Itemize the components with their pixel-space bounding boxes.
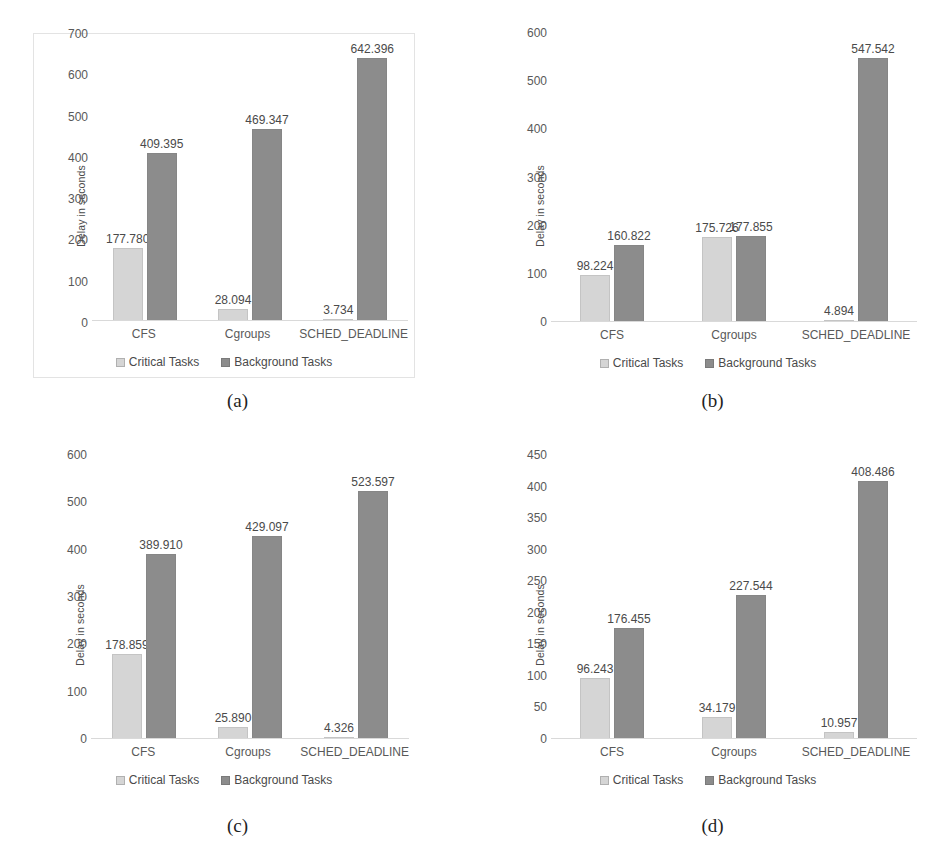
plot-area-a: 177.780409.39528.094469.3473.734642.396 [92, 34, 408, 321]
bar-value-label: 4.894 [824, 304, 854, 318]
y-tick-label: 700 [68, 27, 88, 41]
x-tick-label: CFS [92, 327, 196, 345]
bar-wrapper: 429.097 [252, 455, 282, 739]
bar-value-label: 34.179 [699, 701, 736, 715]
bar-background-tasks[interactable] [252, 536, 282, 739]
bar-background-tasks[interactable] [736, 236, 766, 322]
y-axis-ticks-c: 0100200300400500600 [51, 455, 87, 795]
bar-groups-c: 178.859389.91025.890429.0974.326523.597 [91, 455, 409, 739]
bar-wrapper: 389.910 [146, 455, 176, 739]
legend-item[interactable]: Critical Tasks [600, 773, 683, 787]
bar-critical-tasks[interactable] [702, 237, 732, 322]
bar-wrapper: 4.326 [324, 455, 354, 739]
bar-wrapper: 175.726 [702, 33, 732, 322]
plot-area-b: 98.224160.822175.726177.8554.894547.542 [551, 33, 917, 322]
y-tick-label: 600 [68, 68, 88, 82]
bar-group: 175.726177.855 [673, 33, 795, 322]
x-tick-label: Cgroups [673, 745, 795, 763]
legend-item[interactable]: Critical Tasks [116, 355, 199, 369]
bar-wrapper: 28.094 [218, 34, 248, 321]
bar-background-tasks[interactable] [858, 58, 888, 322]
y-tick-label: 0 [540, 732, 547, 746]
bar-background-tasks[interactable] [614, 628, 644, 739]
panel-d: Delay in seconds 05010015020025030035040… [475, 430, 950, 855]
bar-group: 10.957408.486 [795, 455, 917, 739]
bar-value-label: 28.094 [215, 293, 252, 307]
bar-value-label: 175.726 [695, 221, 738, 235]
plot-frame-a: Delay in seconds 0100200300400500600700 … [33, 33, 415, 378]
y-axis-ticks-a: 0100200300400500600700 [52, 34, 88, 377]
legend-a: Critical TasksBackground Tasks [34, 355, 414, 369]
plot-frame-d: Delay in seconds 05010015020025030035040… [493, 455, 923, 795]
plot-frame-c: Delay in seconds 0100200300400500600 178… [33, 455, 415, 795]
legend-item[interactable]: Background Tasks [221, 355, 332, 369]
bar-value-label: 10.957 [821, 716, 858, 730]
bar-critical-tasks[interactable] [702, 717, 732, 739]
legend-item[interactable]: Background Tasks [221, 773, 332, 787]
bar-background-tasks[interactable] [147, 153, 177, 321]
legend-item[interactable]: Critical Tasks [116, 773, 199, 787]
x-axis-labels-b: CFSCgroupsSCHED_DEADLINE [551, 328, 917, 346]
x-tick-label: CFS [551, 328, 673, 346]
y-tick-label: 100 [67, 685, 87, 699]
legend-item[interactable]: Background Tasks [705, 773, 816, 787]
y-tick-label: 200 [68, 233, 88, 247]
legend-label: Background Tasks [718, 773, 816, 787]
bar-background-tasks[interactable] [252, 129, 282, 321]
bar-wrapper: 177.780 [113, 34, 143, 321]
bar-value-label: 98.224 [577, 259, 614, 273]
bar-wrapper: 177.855 [736, 33, 766, 322]
bar-value-label: 160.822 [607, 229, 650, 243]
y-tick-label: 500 [527, 74, 547, 88]
bar-wrapper: 469.347 [252, 34, 282, 321]
y-tick-label: 250 [527, 574, 547, 588]
bar-background-tasks[interactable] [358, 491, 388, 739]
bar-background-tasks[interactable] [614, 245, 644, 322]
x-axis-line-c [91, 738, 409, 739]
x-axis-line-d [551, 738, 917, 739]
y-tick-label: 400 [527, 480, 547, 494]
square-swatch-icon [116, 776, 125, 785]
bar-groups-d: 96.243176.45534.179227.54410.957408.486 [551, 455, 917, 739]
legend-label: Critical Tasks [613, 356, 683, 370]
bar-value-label: 3.734 [323, 303, 353, 317]
legend-item[interactable]: Critical Tasks [600, 356, 683, 370]
bar-wrapper: 3.734 [323, 34, 353, 321]
bar-group: 98.224160.822 [551, 33, 673, 322]
bar-group: 4.894547.542 [795, 33, 917, 322]
legend-item[interactable]: Background Tasks [705, 356, 816, 370]
bar-wrapper: 642.396 [357, 34, 387, 321]
bar-critical-tasks[interactable] [112, 654, 142, 739]
y-tick-label: 400 [527, 122, 547, 136]
y-tick-label: 300 [527, 543, 547, 557]
caption-b: (b) [475, 390, 950, 412]
bar-critical-tasks[interactable] [580, 678, 610, 739]
bar-critical-tasks[interactable] [580, 275, 610, 322]
legend-d: Critical TasksBackground Tasks [493, 773, 923, 787]
bar-background-tasks[interactable] [736, 595, 766, 739]
x-tick-label: SCHED_DEADLINE [795, 328, 917, 346]
legend-label: Background Tasks [234, 355, 332, 369]
x-tick-label: Cgroups [673, 328, 795, 346]
y-tick-label: 300 [68, 192, 88, 206]
square-swatch-icon [705, 359, 714, 368]
x-tick-label: CFS [551, 745, 673, 763]
x-tick-label: Cgroups [196, 745, 301, 763]
bar-background-tasks[interactable] [357, 58, 387, 321]
plot-area-c: 178.859389.91025.890429.0974.326523.597 [91, 455, 409, 739]
x-tick-label: SCHED_DEADLINE [300, 745, 409, 763]
bar-background-tasks[interactable] [858, 481, 888, 739]
legend-label: Background Tasks [718, 356, 816, 370]
bar-background-tasks[interactable] [146, 554, 176, 739]
bar-value-label: 469.347 [245, 113, 288, 127]
panel-a: Delay in seconds 0100200300400500600700 … [0, 0, 475, 430]
square-swatch-icon [600, 359, 609, 368]
bar-group: 25.890429.097 [197, 455, 303, 739]
bar-critical-tasks[interactable] [113, 248, 143, 321]
bar-value-label: 178.859 [105, 638, 148, 652]
bar-value-label: 389.910 [139, 538, 182, 552]
y-tick-label: 400 [68, 151, 88, 165]
bar-wrapper: 178.859 [112, 455, 142, 739]
bar-value-label: 25.890 [215, 711, 252, 725]
bar-wrapper: 408.486 [858, 455, 888, 739]
